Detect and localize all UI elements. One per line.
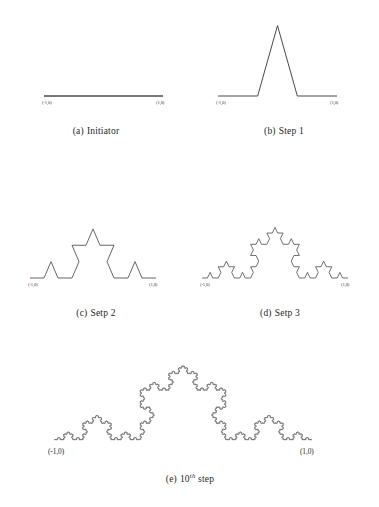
koch-curve-step-3: [190, 182, 370, 288]
figure-page: (-1,0)(1,0)(a)Initiator(-1,0)(1,0)(b)Ste…: [0, 0, 379, 507]
caption-label: (d): [260, 308, 272, 318]
caption-text: Initiator: [87, 126, 119, 136]
coordinate-label-right: (1,0): [300, 447, 314, 456]
coordinate-label-left: (-1,0): [200, 282, 210, 287]
coordinate-label-right: (1,0): [341, 282, 349, 287]
figure-caption-initiator: (a)Initiator: [8, 126, 184, 136]
coordinate-label-left: (-1,0): [42, 100, 52, 105]
figure-step-1: (-1,0)(1,0)(b)Step 1: [196, 8, 372, 114]
caption-text: 10: [180, 474, 190, 484]
koch-path: [54, 366, 312, 440]
figure-step-10: (-1,0)(1,0)(e)10th step: [40, 328, 340, 456]
figure-caption-step-1: (b)Step 1: [196, 126, 372, 136]
coordinate-label-right: (1,0): [149, 282, 157, 287]
caption-label: (a): [73, 126, 84, 136]
coordinate-label-left: (-1,0): [28, 282, 38, 287]
figure-step-3: (-1,0)(1,0)(d)Setp 3: [190, 182, 370, 288]
caption-label: (b): [264, 126, 276, 136]
caption-text: Setp 3: [275, 308, 300, 318]
figure-caption-step-2: (c)Setp 2: [8, 308, 184, 318]
koch-path: [218, 26, 337, 96]
coordinate-label-left: (-1,0): [216, 100, 226, 105]
caption-label: (c): [76, 308, 87, 318]
figure-step-2: (-1,0)(1,0)(c)Setp 2: [8, 182, 184, 288]
koch-curve-step-10: [40, 328, 340, 456]
figure-caption-step-3: (d)Setp 3: [190, 308, 370, 318]
koch-curve-step-1: [196, 8, 372, 114]
coordinate-label-left: (-1,0): [48, 447, 64, 456]
figure-caption-step-10: (e)10th step: [40, 474, 340, 484]
caption-text: Step 1: [279, 126, 304, 136]
koch-path: [202, 227, 348, 278]
coordinate-label-right: (1,0): [330, 100, 338, 105]
koch-curve-step-2: [8, 182, 184, 288]
caption-text-post: step: [196, 474, 215, 484]
koch-path: [30, 229, 156, 278]
koch-curve-initiator: [8, 62, 184, 114]
coordinate-label-right: (1,0): [156, 100, 164, 105]
caption-label: (e): [166, 474, 177, 484]
figure-initiator: (-1,0)(1,0)(a)Initiator: [8, 62, 184, 114]
caption-text: Setp 2: [90, 308, 115, 318]
